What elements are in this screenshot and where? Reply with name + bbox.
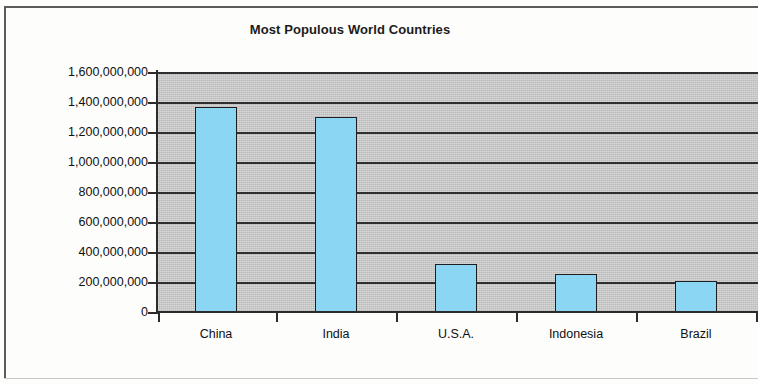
gridline	[158, 222, 758, 224]
bar-india	[315, 117, 357, 312]
bar-indonesia	[555, 274, 597, 312]
gridline	[158, 102, 758, 104]
y-axis-tick-label: 1,400,000,000	[6, 95, 148, 109]
gridline	[158, 132, 758, 134]
bar-china	[195, 107, 237, 313]
y-axis-tick	[148, 102, 157, 104]
y-axis-tick	[148, 282, 157, 284]
y-axis-tick	[148, 132, 157, 134]
x-axis-tick	[396, 313, 398, 322]
y-axis-tick	[148, 72, 157, 74]
y-axis-tick-label: 1,000,000,000	[6, 155, 148, 169]
x-axis-tick	[158, 313, 160, 322]
bar-u-s-a	[435, 264, 477, 312]
x-axis-tick	[276, 313, 278, 322]
y-axis-tick-label: 0	[6, 305, 148, 319]
y-axis-tick-label: 800,000,000	[6, 185, 148, 199]
plot-area	[158, 72, 758, 312]
y-axis-tick-label: 1,200,000,000	[6, 125, 148, 139]
gridline	[158, 162, 758, 164]
y-axis-tick-label: 600,000,000	[6, 215, 148, 229]
bar-brazil	[675, 281, 717, 312]
y-axis-tick-label: 200,000,000	[6, 275, 148, 289]
y-axis-tick	[148, 312, 157, 314]
x-axis-tick-label: U.S.A.	[438, 327, 474, 341]
gridline	[158, 72, 758, 74]
y-axis-tick	[148, 162, 157, 164]
y-axis-tick-labels: 1,600,000,0001,400,000,0001,200,000,0001…	[0, 0, 148, 385]
y-axis-tick-label: 1,600,000,000	[6, 65, 148, 79]
x-axis-tick-label: Brazil	[680, 327, 711, 341]
x-axis-tick-label: China	[200, 327, 233, 341]
y-axis-tick-label: 400,000,000	[6, 245, 148, 259]
y-axis-tick	[148, 252, 157, 254]
x-axis-tick-label: Indonesia	[549, 327, 603, 341]
gridline	[158, 192, 758, 194]
y-axis-tick	[148, 222, 157, 224]
chart-page: Most Populous World Countries 1,600,000,…	[0, 0, 758, 385]
x-axis-tick-label: India	[322, 327, 349, 341]
x-axis-tick	[516, 313, 518, 322]
x-axis-tick	[636, 313, 638, 322]
y-axis-tick	[148, 192, 157, 194]
x-axis-line	[156, 311, 758, 313]
gridline	[158, 252, 758, 254]
